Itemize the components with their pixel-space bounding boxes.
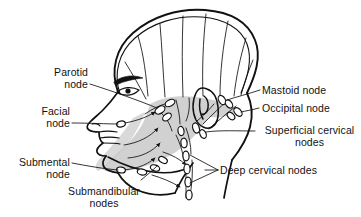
leader-mastoid [227, 90, 260, 100]
deep-cervical-node [183, 151, 190, 161]
label-mastoid-node: Mastoid node [262, 84, 358, 96]
label-facial-node-line2: node [2, 117, 70, 129]
label-deep-cervical-nodes: Deep cervical nodes [220, 164, 350, 176]
label-submental-node: Submental node [0, 156, 70, 180]
label-superficial-cervical-nodes-line1: Superficial cervical [258, 124, 361, 136]
label-parotid-node: Parotid node [6, 66, 88, 90]
lymph-node-diagram: Parotid node Facial node Submental node … [0, 0, 361, 217]
label-submandibular-nodes: Submandibular nodes [62, 185, 146, 209]
label-superficial-cervical-nodes: Superficial cervical nodes [258, 124, 361, 148]
label-submandibular-nodes-line1: Submandibular [62, 185, 146, 197]
label-submandibular-nodes-line2: nodes [62, 197, 146, 209]
deep-cervical-node [180, 138, 187, 148]
nose [92, 124, 100, 126]
leader-occipital [241, 108, 259, 112]
label-deep-cervical-nodes-line1: Deep cervical nodes [220, 164, 350, 176]
leader-deep-cervical-bracket [190, 155, 218, 183]
label-occipital-node-line1: Occipital node [262, 102, 358, 114]
deep-cervical-node [185, 177, 191, 187]
label-submental-node-line2: node [0, 168, 70, 180]
label-facial-node-line1: Facial [2, 105, 70, 117]
superficial-cervical-node [198, 129, 207, 140]
label-parotid-node-line1: Parotid [6, 66, 88, 78]
label-occipital-node: Occipital node [262, 102, 358, 114]
label-parotid-node-line2: node [6, 78, 88, 90]
label-submental-node-line1: Submental [0, 156, 70, 168]
label-mastoid-node-line1: Mastoid node [262, 84, 358, 96]
deep-cervical-node [186, 190, 192, 200]
label-superficial-cervical-nodes-line2: nodes [258, 136, 361, 148]
label-facial-node: Facial node [2, 105, 70, 129]
eyebrow [114, 76, 143, 85]
deep-cervical-node [184, 164, 191, 174]
submandibular-node [137, 168, 148, 176]
